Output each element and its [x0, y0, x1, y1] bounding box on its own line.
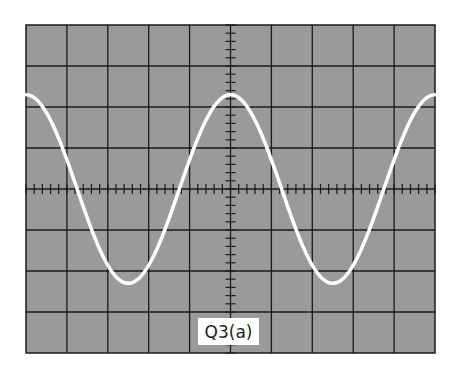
figure-label: Q3(a)	[198, 318, 259, 345]
